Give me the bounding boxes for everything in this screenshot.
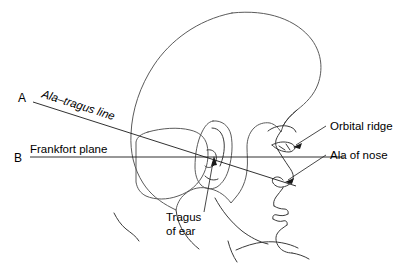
ala-of-nose-annotation: Ala of nose [285,149,388,184]
tragus-of-ear-label-line2: of ear [166,225,196,237]
tragus-of-ear-label-line1: Tragus [166,211,202,223]
ala-of-nose-label: Ala of nose [330,149,388,161]
marker-a-label: A [18,91,26,105]
anatomical-diagram-figure: A B Ala–tragus line Frankfort plane Orbi… [0,0,410,279]
face-profile-outline [272,110,297,253]
marker-b-label: B [14,151,22,165]
ala-tragus-line-label: Ala–tragus line [39,87,116,122]
orbital-ridge-label: Orbital ridge [330,120,393,132]
tragus-of-ear-annotation: Tragus of ear [166,156,217,237]
eye-detail [272,142,295,152]
jaw-underline [215,198,309,262]
frankfort-plane-label: Frankfort plane [30,143,107,155]
orbital-ridge-annotation: Orbital ridge [293,120,393,149]
